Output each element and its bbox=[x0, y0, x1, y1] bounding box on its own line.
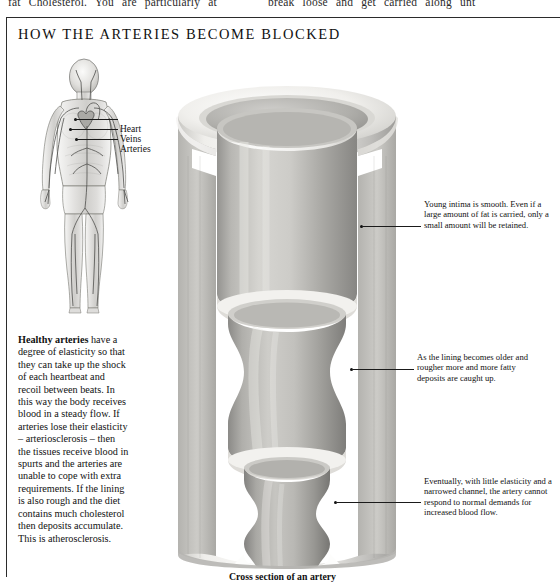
annotation-1-leader-line bbox=[363, 226, 421, 227]
label-arteries: Arteries bbox=[120, 144, 151, 154]
artery-segment-young bbox=[217, 108, 357, 329]
annotation-narrowed-channel: Eventually, with little elasticity and a… bbox=[424, 476, 552, 518]
wall-cut-face-right bbox=[358, 116, 396, 556]
figure-frame: HOW THE ARTERIES BECOME BLOCKED bbox=[6, 17, 560, 577]
body-silhouette bbox=[41, 59, 128, 313]
annotation-lining-older: As the lining becomes older and rougher … bbox=[417, 352, 545, 383]
label-veins: Veins bbox=[120, 134, 141, 144]
top-text-left-fragment: fat Cholesterol. You are particularly at bbox=[8, 0, 217, 8]
page-top-running-text: fat Cholesterol. You are particularly at… bbox=[0, 0, 560, 9]
annotation-3-leader-line bbox=[337, 502, 421, 503]
figure-title: HOW THE ARTERIES BECOME BLOCKED bbox=[18, 26, 341, 43]
label-heart: Heart bbox=[120, 124, 141, 134]
annotation-2-leader-line bbox=[353, 369, 414, 370]
circulatory-system-figure bbox=[31, 56, 146, 314]
healthy-arteries-paragraph: Healthy arteries have a degree of elasti… bbox=[18, 334, 130, 545]
paragraph-body: have a degree of elasticity so that they… bbox=[18, 334, 128, 544]
arteries-leader-line bbox=[76, 139, 118, 140]
veins-leader-line bbox=[70, 129, 118, 130]
paragraph-lead-bold: Healthy arteries bbox=[18, 334, 88, 345]
heart-leader-line bbox=[75, 119, 118, 120]
artery-caption: Cross section of an artery bbox=[229, 571, 336, 582]
annotation-young-intima: Young intima is smooth. Even if a large … bbox=[424, 199, 552, 230]
artery-cross-section-illustration bbox=[170, 56, 405, 569]
wall-cut-face-left bbox=[178, 116, 216, 556]
top-text-right-fragment: break loose and get carried along unt bbox=[268, 0, 475, 8]
